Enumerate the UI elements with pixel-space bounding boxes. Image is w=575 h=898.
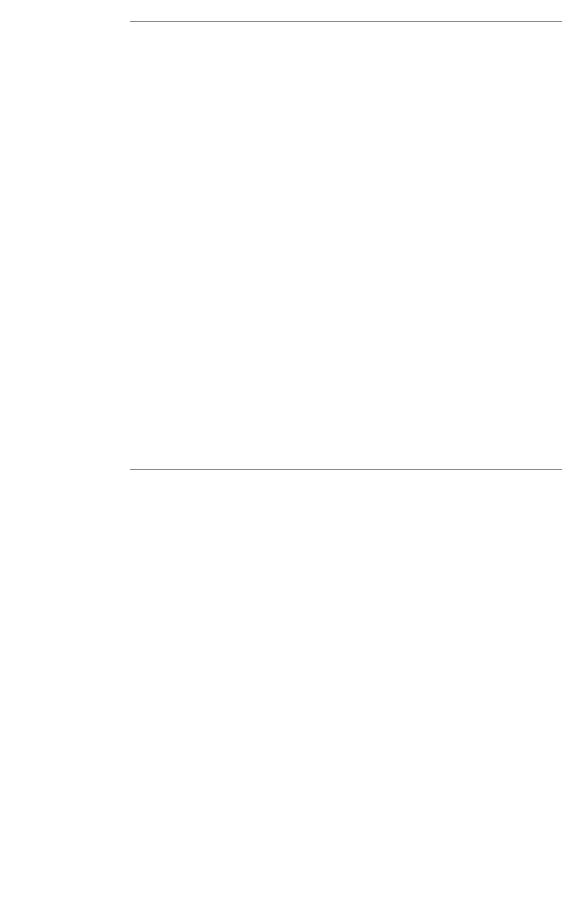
bar-chart-top <box>0 0 575 448</box>
x-axis-top <box>0 0 575 22</box>
bar-chart-bottom <box>0 448 575 898</box>
x-axis-bottom <box>0 448 575 470</box>
axis-line <box>130 21 562 22</box>
axis-line <box>130 469 562 470</box>
